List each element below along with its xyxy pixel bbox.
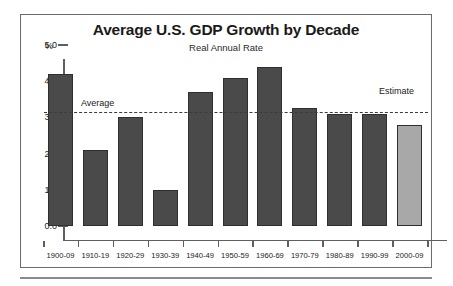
x-axis-tick-mark	[287, 241, 289, 247]
x-axis-tick-label: 1960-69	[256, 251, 284, 260]
average-line-label: Average	[81, 98, 114, 108]
y-axis-tick-mark	[58, 44, 68, 46]
x-axis-tick-label: 1990-99	[361, 251, 389, 260]
bar-1950-59	[223, 78, 248, 226]
x-axis-tick-mark	[357, 241, 359, 247]
bar-1960-69	[257, 67, 282, 226]
x-axis-tick-label: 1920-29	[116, 251, 144, 260]
x-axis-tick-mark	[113, 241, 115, 247]
chart-title: Average U.S. GDP Growth by Decade	[21, 21, 431, 39]
bottom-divider-rule	[20, 277, 432, 279]
bar-1930-39	[153, 190, 178, 226]
average-reference-line	[44, 112, 428, 113]
x-axis-tick-mark	[392, 241, 394, 247]
x-axis-tick-mark	[148, 241, 150, 247]
x-axis-tick-label: 1900-09	[47, 251, 75, 260]
bar-1980-89	[327, 114, 352, 226]
x-axis-tick-mark	[252, 241, 254, 247]
x-axis-tick-label: 1910-19	[81, 251, 109, 260]
bar-1900-09	[48, 74, 73, 226]
x-axis-tick-label: 1950-59	[221, 251, 249, 260]
x-axis-tick-label: 1970-79	[291, 251, 319, 260]
bar-2000-09	[397, 125, 422, 226]
bar-1920-29	[118, 117, 143, 226]
bar-1910-19	[83, 150, 108, 226]
estimate-callout-label: Estimate	[379, 86, 414, 96]
x-axis-tick-mark	[43, 241, 45, 247]
x-axis-tick-label: 1930-39	[151, 251, 179, 260]
y-axis-tick-label: 5.0	[37, 40, 57, 50]
x-axis-tick-mark	[218, 241, 220, 247]
bar-1970-79	[292, 108, 317, 226]
x-axis-tick-mark	[322, 241, 324, 247]
x-axis-tick-label: 1940-49	[186, 251, 214, 260]
x-axis-tick-label: 2000-09	[396, 251, 424, 260]
x-axis-tick-label: 1980-89	[326, 251, 354, 260]
chart-subtitle: Real Annual Rate	[21, 42, 431, 53]
chart-frame: Average U.S. GDP Growth by Decade Real A…	[20, 14, 432, 268]
x-axis-tick-mark	[78, 241, 80, 247]
x-axis-tick-mark	[183, 241, 185, 247]
x-axis-tick-mark	[427, 241, 429, 247]
x-axis-line	[63, 240, 447, 242]
gdp-growth-chart-figure: Average U.S. GDP Growth by Decade Real A…	[0, 0, 453, 286]
bar-1990-99	[362, 114, 387, 226]
